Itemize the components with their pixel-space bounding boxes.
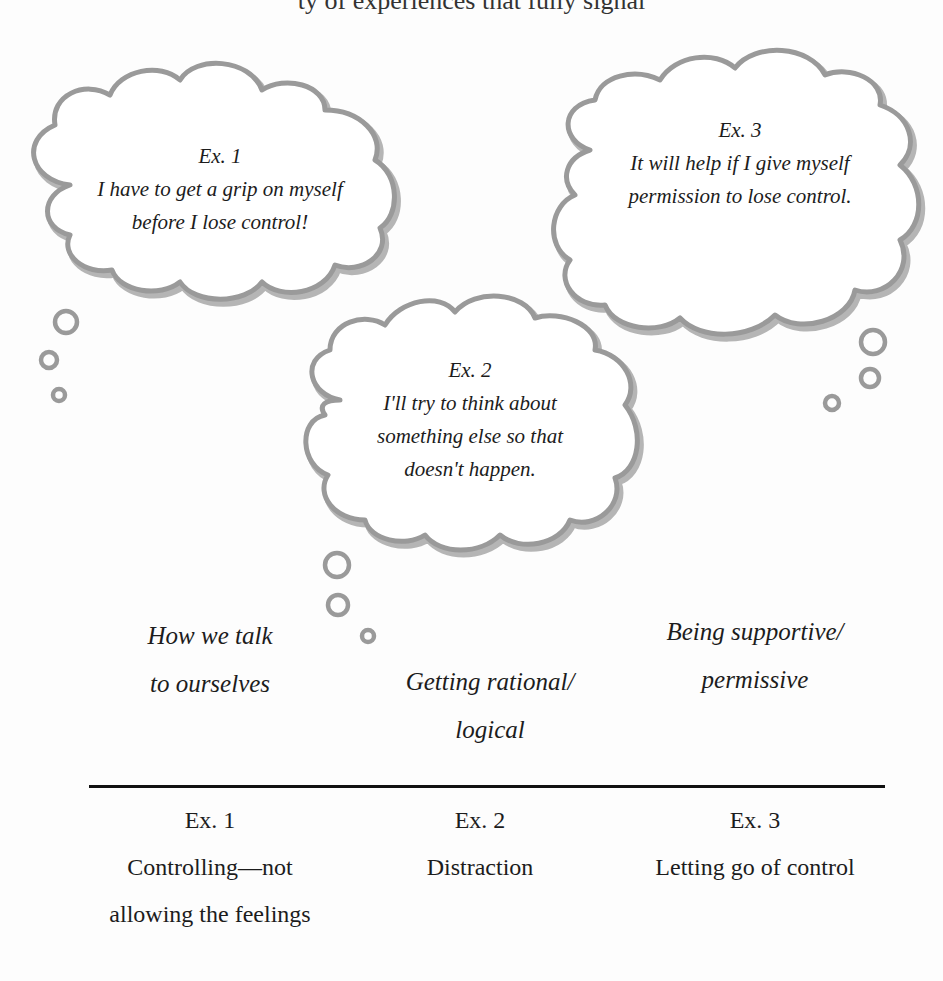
category-left: How we talk to ourselves — [100, 612, 320, 708]
example-col-1: Ex. 1 Controlling—not allowing the feeli… — [80, 797, 340, 938]
example-label: Ex. 3 — [620, 797, 890, 844]
example-col-2: Ex. 2 Distraction — [360, 797, 600, 891]
category-right: Being supportive/ permissive — [630, 608, 880, 704]
cloud-line: permission to lose control. — [580, 180, 900, 213]
cloud-line: It will help if I give myself — [580, 147, 900, 180]
thought-bubble-dot — [328, 595, 348, 615]
example-label: Ex. 1 — [80, 797, 340, 844]
category-line: Getting rational/ — [370, 658, 610, 706]
thought-bubble-dot — [362, 630, 374, 642]
cloud-text-ex2: Ex. 2 I'll try to think about something … — [330, 354, 610, 486]
thought-bubble-dot — [825, 396, 839, 410]
cloud-line: I have to get a grip on myself — [60, 173, 380, 206]
cloud-label: Ex. 1 — [60, 140, 380, 173]
cloud-text-ex1: Ex. 1 I have to get a grip on myself bef… — [60, 140, 380, 239]
category-line: to ourselves — [100, 660, 320, 708]
example-line: allowing the feelings — [80, 891, 340, 938]
category-line: Being supportive/ — [630, 608, 880, 656]
category-line: permissive — [630, 656, 880, 704]
thought-bubble-dot — [861, 369, 879, 387]
cloud-label: Ex. 3 — [580, 114, 900, 147]
example-line: Distraction — [360, 844, 600, 891]
example-label: Ex. 2 — [360, 797, 600, 844]
example-line: Controlling—not — [80, 844, 340, 891]
divider-line — [89, 785, 885, 788]
thought-bubble-dot — [861, 330, 885, 354]
category-line: How we talk — [100, 612, 320, 660]
thought-bubble-dot — [325, 553, 349, 577]
cloud-line: I'll try to think about — [330, 387, 610, 420]
cloud-text-ex3: Ex. 3 It will help if I give myself perm… — [580, 114, 900, 213]
cloud-line: before I lose control! — [60, 206, 380, 239]
cloud-line: doesn't happen. — [330, 453, 610, 486]
example-line: Letting go of control — [620, 844, 890, 891]
cloud-line: something else so that — [330, 420, 610, 453]
category-line: logical — [370, 706, 610, 754]
thought-bubble-dot — [55, 311, 77, 333]
example-col-3: Ex. 3 Letting go of control — [620, 797, 890, 891]
cloud-label: Ex. 2 — [330, 354, 610, 387]
thought-bubble-dot — [41, 352, 57, 368]
thought-bubble-dot — [53, 389, 65, 401]
category-middle: Getting rational/ logical — [370, 658, 610, 754]
